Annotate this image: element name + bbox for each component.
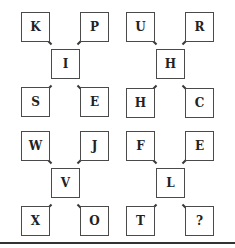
letter-box-center: H <box>156 49 185 79</box>
letter-box-top-left: U <box>126 12 155 42</box>
letter-box-top-left: F <box>126 131 155 161</box>
letter-box-center: V <box>51 168 80 198</box>
letter-box-bottom-left: T <box>126 206 155 236</box>
letter-box-top-right: E <box>185 131 214 161</box>
letter-box-bottom-left: X <box>21 206 50 236</box>
letter-box-bottom-left: H <box>126 88 155 118</box>
letter-box-bottom-right: C <box>185 88 214 118</box>
letter-box-top-right: J <box>80 131 109 161</box>
letter-box-bottom-left: S <box>21 87 50 117</box>
letter-box-center: L <box>156 168 185 198</box>
letter-box-top-left: K <box>21 12 50 42</box>
letter-puzzle-diagram: K P I S E U R H H C W J V X O F E L T <box>0 0 235 248</box>
bottom-divider <box>0 242 235 244</box>
letter-box-center: I <box>51 49 80 79</box>
letter-box-bottom-right-unknown: ? <box>185 206 214 236</box>
letter-box-top-right: P <box>80 12 109 42</box>
letter-box-bottom-right: O <box>80 206 109 236</box>
letter-box-top-right: R <box>185 12 214 42</box>
letter-box-bottom-right: E <box>80 87 109 117</box>
letter-box-top-left: W <box>21 131 50 161</box>
